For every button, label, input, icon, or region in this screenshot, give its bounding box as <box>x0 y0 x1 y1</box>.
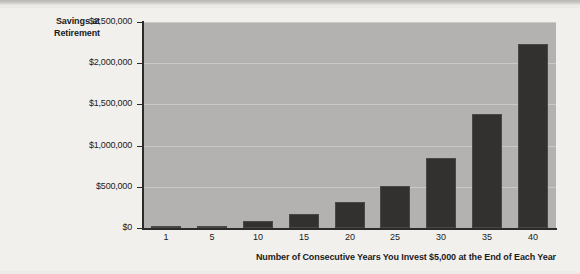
y-axis-tick-label: $1,000,000 <box>36 140 132 150</box>
x-axis-tick-label: 15 <box>284 232 324 242</box>
bar <box>426 158 456 228</box>
x-axis-tick-label: 1 <box>146 232 186 242</box>
x-axis-line <box>142 228 557 230</box>
x-axis-tick-label: 35 <box>467 232 507 242</box>
y-axis-tick <box>137 104 143 105</box>
y-axis-tick-label: $0 <box>36 222 132 232</box>
bar <box>472 114 502 228</box>
y-axis-tick <box>137 187 143 188</box>
x-axis-tick-label: 10 <box>238 232 278 242</box>
bar <box>380 186 410 228</box>
x-axis-tick-label: 5 <box>192 232 232 242</box>
bar <box>335 202 365 228</box>
x-axis-tick-label: 20 <box>330 232 370 242</box>
x-axis-tick-label: 40 <box>513 232 553 242</box>
chart-page: Savings at Retirement $2,500,000$2,000,0… <box>0 0 580 274</box>
y-axis-tick <box>137 146 143 147</box>
y-axis-tick <box>137 63 143 64</box>
x-axis-tick-label: 30 <box>421 232 461 242</box>
plot-area <box>143 22 556 228</box>
y-axis-title-line2: Retirement <box>8 28 100 40</box>
y-axis-tick <box>137 22 143 23</box>
y-axis-tick-label: $2,000,000 <box>36 57 132 67</box>
x-axis-tick-label: 25 <box>375 232 415 242</box>
scan-artifact-top-secondary <box>0 5 580 8</box>
y-axis-tick-label: $1,500,000 <box>36 98 132 108</box>
y-axis-tick-label: $500,000 <box>36 181 132 191</box>
bar <box>518 44 548 228</box>
gridline <box>143 63 556 64</box>
bar <box>243 221 273 228</box>
bar <box>289 214 319 228</box>
y-axis-tick-label: $2,500,000 <box>36 16 132 26</box>
gridline <box>143 22 556 23</box>
x-axis-title: Number of Consecutive Years You Invest $… <box>0 252 556 262</box>
y-axis-tick <box>137 228 143 229</box>
gridline <box>143 104 556 105</box>
y-axis-line <box>142 21 144 229</box>
